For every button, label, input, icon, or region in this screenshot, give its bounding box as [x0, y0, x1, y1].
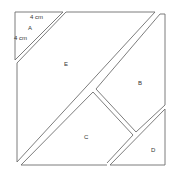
- piece-b: [96, 14, 165, 132]
- dimension-top-label: 4 cm: [30, 14, 43, 20]
- piece-b-label: B: [138, 80, 142, 86]
- piece-a-label: A: [28, 25, 32, 31]
- piece-c: [21, 92, 133, 165]
- piece-e-label: E: [64, 61, 68, 67]
- piece-d: [110, 109, 165, 165]
- square-dissection-diagram: 4 cm 4 cm A E B C D: [0, 0, 175, 175]
- piece-d-label: D: [151, 147, 156, 153]
- piece-c-label: C: [84, 134, 89, 140]
- dimension-left-label: 4 cm: [14, 35, 27, 41]
